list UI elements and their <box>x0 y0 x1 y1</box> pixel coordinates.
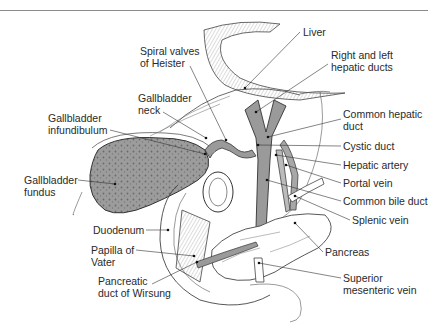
label-gallbladder-infundibulum: Gallbladder infundibulum <box>48 112 108 136</box>
label-gallbladder-fundus: Gallbladder fundus <box>24 174 78 198</box>
gallbladder-shape <box>73 133 212 215</box>
label-spiral-valves: Spiral valves of Heister <box>140 45 200 69</box>
label-common-bile-duct: Common bile duct <box>343 195 428 207</box>
label-hepatic-ducts: Right and left hepatic ducts <box>331 49 393 73</box>
label-cystic-duct: Cystic duct <box>343 140 394 152</box>
label-gallbladder-neck: Gallbladder neck <box>138 92 192 116</box>
label-hepatic-artery: Hepatic artery <box>343 159 408 171</box>
label-splenic-vein: Splenic vein <box>352 214 409 226</box>
label-duodenum: Duodenum <box>93 224 144 236</box>
label-papilla-of-vater: Papilla of Vater <box>91 244 134 268</box>
label-portal-vein: Portal vein <box>343 177 393 189</box>
cystic-duct-shape <box>205 140 256 158</box>
label-superior-mesenteric-vein: Superior mesenteric vein <box>343 272 417 296</box>
label-common-hepatic-duct: Common hepatic duct <box>343 108 422 132</box>
vessels-shape <box>276 140 324 212</box>
label-liver: Liver <box>303 26 326 38</box>
label-pancreas: Pancreas <box>325 246 369 258</box>
pancreas-shape <box>196 214 331 322</box>
label-pancreatic-duct: Pancreatic duct of Wirsung <box>98 275 171 299</box>
